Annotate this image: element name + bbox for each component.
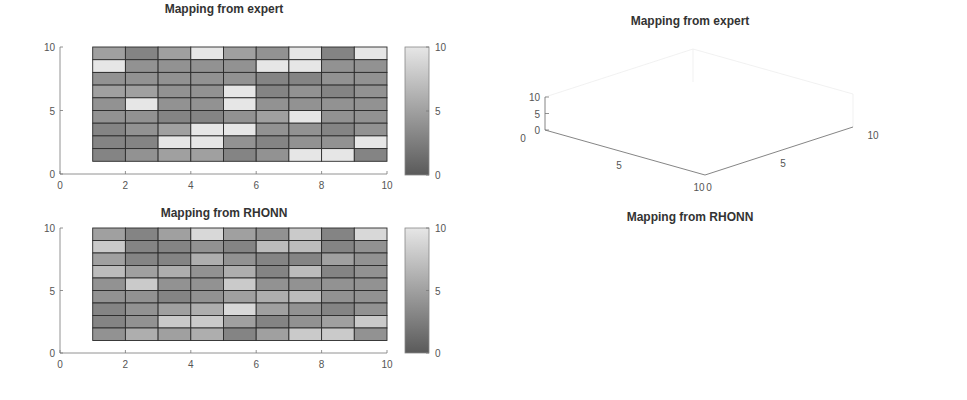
- heatmap-cell: [125, 47, 158, 60]
- heatmap-cell: [354, 253, 387, 266]
- heatmap-cell: [93, 111, 126, 124]
- heatmap-cell: [354, 111, 387, 124]
- heatmap-cell: [354, 98, 387, 111]
- heatmap-cell: [191, 111, 224, 124]
- heatmap-cell: [224, 60, 257, 73]
- heatmap-cell: [354, 60, 387, 73]
- tick-label: 8: [319, 359, 325, 370]
- heatmap-cell: [125, 303, 158, 316]
- heatmap-cell: [256, 111, 289, 124]
- heatmap-cell: [289, 291, 322, 304]
- heatmap-cell: [322, 98, 355, 111]
- heatmap-cell: [224, 85, 257, 98]
- heatmap-cell: [158, 278, 191, 291]
- tick-label: 5: [616, 160, 622, 171]
- heatmap-cell: [158, 241, 191, 254]
- heatmap-cell: [224, 266, 257, 279]
- heatmap-cell: [191, 253, 224, 266]
- tick-label: 5: [49, 286, 55, 297]
- heatmap-plot-area: 024681005100510: [0, 200, 480, 400]
- heatmap-cell: [224, 47, 257, 60]
- heatmap-cell: [93, 136, 126, 149]
- heatmap-cell: [256, 316, 289, 329]
- heatmap-cell: [93, 149, 126, 162]
- heatmap-cell: [322, 328, 355, 341]
- heatmap-cell: [224, 111, 257, 124]
- heatmap-cell: [224, 278, 257, 291]
- heatmap-cell: [191, 228, 224, 241]
- tick-label: 0: [57, 359, 63, 370]
- heatmap-cell: [158, 47, 191, 60]
- heatmap-cell: [224, 316, 257, 329]
- heatmap-cell: [224, 228, 257, 241]
- heatmap-cell: [354, 303, 387, 316]
- heatmap-cell: [224, 123, 257, 136]
- heatmap-cell: [256, 328, 289, 341]
- tick-label: 5: [435, 106, 441, 117]
- heatmap-cell: [125, 316, 158, 329]
- heatmap-cell: [125, 228, 158, 241]
- heatmap-expert-panel: Mapping from expert 024681005100510: [0, 0, 480, 200]
- heatmap-plot-area: 024681005100510: [0, 0, 480, 200]
- tick-label: 0: [520, 133, 526, 144]
- heatmap-cell: [256, 72, 289, 85]
- tick-label: 10: [44, 223, 56, 234]
- heatmap-cell: [354, 316, 387, 329]
- heatmap-cell: [256, 98, 289, 111]
- heatmap-cell: [158, 328, 191, 341]
- heatmap-cell: [256, 266, 289, 279]
- heatmap-cell: [191, 123, 224, 136]
- heatmap-cell: [158, 123, 191, 136]
- heatmap-cell: [224, 303, 257, 316]
- heatmap-rhonn-panel: Mapping from RHONN 024681005100510: [0, 200, 480, 400]
- heatmap-cell: [191, 328, 224, 341]
- heatmap-cell: [289, 123, 322, 136]
- heatmap-cell: [289, 60, 322, 73]
- tick-label: 10: [867, 130, 879, 141]
- tick-label: 0: [706, 182, 712, 193]
- heatmap-cell: [224, 253, 257, 266]
- heatmap-cell: [158, 291, 191, 304]
- heatmap-cells: [93, 47, 387, 161]
- heatmap-cell: [322, 316, 355, 329]
- heatmap-cell: [322, 72, 355, 85]
- heatmap-cell: [224, 291, 257, 304]
- heatmap-cell: [256, 278, 289, 291]
- heatmap-cell: [93, 278, 126, 291]
- tick-label: 5: [780, 158, 786, 169]
- heatmap-cell: [224, 98, 257, 111]
- heatmap-cell: [191, 291, 224, 304]
- heatmap-cell: [158, 60, 191, 73]
- heatmap-cell: [191, 316, 224, 329]
- heatmap-cell: [354, 149, 387, 162]
- heatmap-cell: [125, 266, 158, 279]
- tick-label: 10: [435, 42, 447, 53]
- heatmap-cell: [322, 253, 355, 266]
- surface-expert-panel: Mapping from expert 051005100510: [480, 0, 967, 200]
- heatmap-cell: [354, 241, 387, 254]
- heatmap-cell: [256, 149, 289, 162]
- surface-plot-area: 051005100510: [480, 0, 967, 200]
- heatmap-cell: [93, 328, 126, 341]
- heatmap-cell: [93, 85, 126, 98]
- heatmap-cell: [191, 98, 224, 111]
- heatmap-cell: [93, 241, 126, 254]
- axes: [545, 49, 853, 175]
- heatmap-cell: [224, 328, 257, 341]
- heatmap-cell: [125, 253, 158, 266]
- heatmap-cell: [158, 316, 191, 329]
- heatmap-cell: [256, 241, 289, 254]
- heatmap-cell: [158, 98, 191, 111]
- heatmap-cell: [191, 72, 224, 85]
- heatmap-cell: [289, 111, 322, 124]
- heatmap-cell: [289, 149, 322, 162]
- tick-label: 10: [693, 182, 705, 193]
- heatmap-cell: [256, 253, 289, 266]
- heatmap-cell: [125, 60, 158, 73]
- heatmap-cell: [125, 98, 158, 111]
- surface-plot-area: [480, 200, 967, 400]
- heatmap-cell: [354, 328, 387, 341]
- heatmap-cell: [322, 136, 355, 149]
- heatmap-cell: [256, 228, 289, 241]
- heatmap-cell: [354, 278, 387, 291]
